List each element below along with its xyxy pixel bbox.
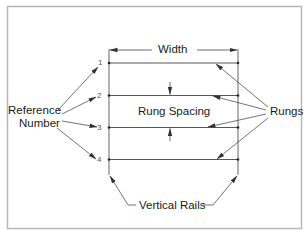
reference-leaders bbox=[57, 67, 98, 159]
rungs-label: Rungs bbox=[270, 106, 303, 118]
reference-label-line1: Reference bbox=[8, 105, 61, 117]
width-label: Width bbox=[158, 44, 187, 56]
ladder-diagram: Width Rung Spacing Rungs Reference Numbe… bbox=[0, 0, 307, 235]
reference-label-line2: Number bbox=[19, 118, 60, 130]
reference-number-2: 2 bbox=[97, 92, 101, 100]
rung-spacing-label: Rung Spacing bbox=[138, 106, 210, 118]
reference-number-4: 4 bbox=[97, 156, 101, 164]
reference-number-1: 1 bbox=[98, 59, 102, 67]
reference-number-3: 3 bbox=[97, 124, 101, 132]
vertical-rails-label: Vertical Rails bbox=[139, 200, 205, 212]
